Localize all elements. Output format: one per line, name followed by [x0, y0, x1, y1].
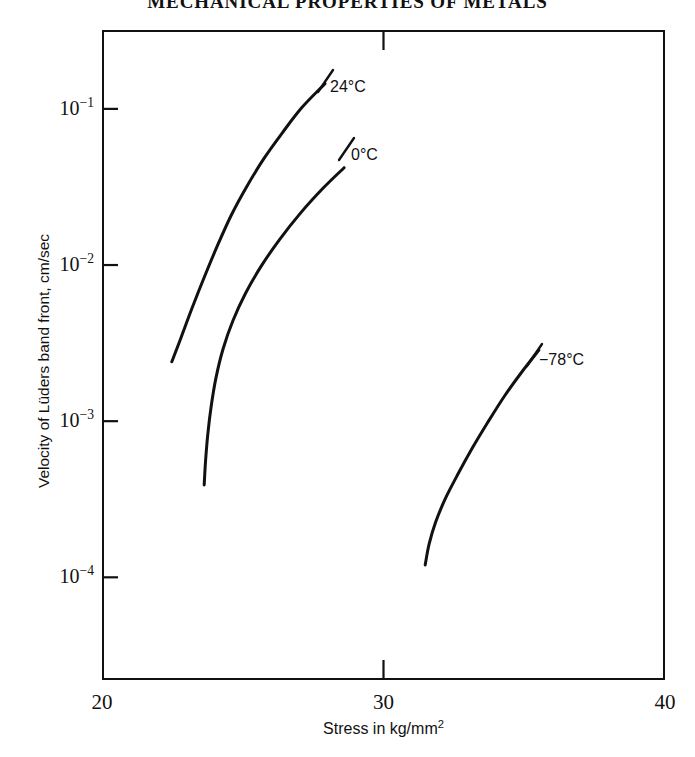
curve-label-0c: 0°C [351, 146, 378, 164]
curve-label-minus78c: −78°C [539, 351, 584, 369]
y-axis-tick-label: 10−4 [60, 563, 94, 588]
y-axis-title: Velocity of Lüders band front, cm/sec [35, 151, 53, 571]
y-axis-tick-label: 10−2 [60, 251, 94, 276]
x-axis-title: Stress in kg/mm2 [102, 718, 665, 738]
figure: MECHANICAL PROPERTIES OF METALS 10−110−2… [0, 0, 695, 757]
x-axis-title-exponent: 2 [438, 718, 444, 730]
x-axis-title-text: Stress in kg/mm [323, 720, 438, 737]
curve-label-24c: 24°C [330, 78, 366, 96]
x-axis-tick-label: 40 [655, 690, 676, 715]
page-running-head: MECHANICAL PROPERTIES OF METALS [0, 0, 695, 13]
y-axis-tick-label: 10−3 [60, 407, 94, 432]
x-axis-tick-label: 20 [92, 690, 113, 715]
x-axis-tick-label: 30 [373, 690, 394, 715]
y-axis-tick-label: 10−1 [60, 95, 94, 120]
